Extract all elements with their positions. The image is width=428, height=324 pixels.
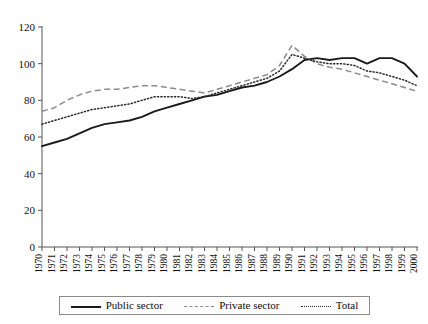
y-tick-label: 100 <box>19 58 36 70</box>
chart-canvas: 020406080100120 197019711972197319741975… <box>0 0 428 324</box>
x-tick-label: 1997 <box>372 254 382 273</box>
x-tick-label: 1993 <box>322 254 332 273</box>
x-tick-label: 1972 <box>59 254 69 273</box>
series-line-total <box>42 55 417 125</box>
x-tick-label: 1981 <box>172 254 182 273</box>
x-tick-label: 1973 <box>72 254 82 273</box>
x-tick-label: 1984 <box>209 254 219 273</box>
line-chart: 020406080100120 197019711972197319741975… <box>0 0 428 324</box>
solid-line-swatch <box>71 302 101 310</box>
x-tick-label: 1989 <box>272 254 282 273</box>
legend-label-private-sector: Private sector <box>219 300 279 311</box>
legend-item-public-sector: Public sector <box>71 300 163 311</box>
legend-item-total: Total <box>301 300 358 311</box>
x-tick-label: 1975 <box>97 254 107 273</box>
x-tick-label: 1992 <box>309 254 319 273</box>
dotted-line-swatch <box>301 302 331 310</box>
x-tick-label: 1974 <box>84 254 94 273</box>
x-tick-label: 1979 <box>147 254 157 273</box>
y-tick-label: 0 <box>30 241 36 253</box>
x-tick-label: 2000 <box>409 254 419 273</box>
legend-label-total: Total <box>336 300 358 311</box>
x-tick-label: 1986 <box>234 254 244 273</box>
x-tick-label: 1983 <box>197 254 207 273</box>
x-tick-label: 1987 <box>247 254 257 273</box>
x-tick-label: 1990 <box>284 254 294 273</box>
y-axis: 020406080100120 <box>19 21 43 253</box>
y-tick-label: 20 <box>24 204 36 216</box>
x-axis: 1970197119721973197419751976197719781979… <box>34 247 419 273</box>
legend-label-public-sector: Public sector <box>106 300 163 311</box>
x-tick-label: 1995 <box>347 254 357 273</box>
legend-item-private-sector: Private sector <box>184 300 279 311</box>
x-tick-label: 1982 <box>184 254 194 273</box>
y-tick-label: 120 <box>19 21 36 33</box>
y-tick-label: 40 <box>24 168 36 180</box>
x-tick-label: 1999 <box>397 254 407 273</box>
series-layer <box>42 45 417 146</box>
x-tick-label: 1980 <box>159 254 169 273</box>
x-tick-label: 1976 <box>109 254 119 273</box>
x-tick-label: 1998 <box>384 254 394 273</box>
x-tick-label: 1970 <box>34 254 44 273</box>
y-tick-label: 80 <box>24 94 36 106</box>
x-tick-label: 1978 <box>134 254 144 273</box>
chart-legend: Public sector Private sector Total <box>59 296 370 315</box>
x-tick-label: 1996 <box>359 254 369 273</box>
series-line-public-sector <box>42 58 417 146</box>
x-tick-label: 1977 <box>122 254 132 273</box>
x-tick-label: 1985 <box>222 254 232 273</box>
x-tick-label: 1988 <box>259 254 269 273</box>
x-tick-label: 1991 <box>297 254 307 273</box>
dashed-line-swatch <box>184 302 214 310</box>
y-tick-label: 60 <box>24 131 36 143</box>
series-line-private-sector <box>42 45 417 111</box>
x-tick-label: 1971 <box>47 254 57 273</box>
x-tick-label: 1994 <box>334 254 344 273</box>
